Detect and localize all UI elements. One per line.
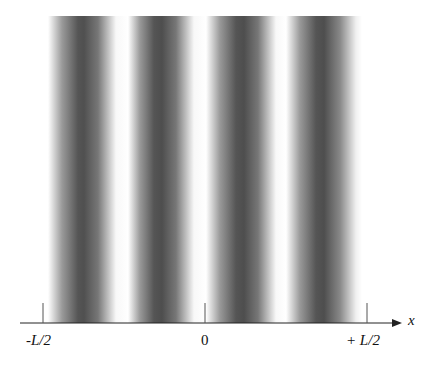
- axis-label: x: [408, 312, 415, 329]
- tick-label-zero: 0: [201, 332, 209, 349]
- tick-label-left: -L/2: [26, 332, 51, 349]
- tick-label-right: + L/2: [346, 332, 380, 349]
- x-axis: [0, 0, 437, 366]
